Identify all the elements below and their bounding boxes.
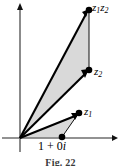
- label-z1z2: z1z2: [92, 2, 108, 15]
- point-z2: [86, 67, 93, 74]
- label-z2: z2: [94, 66, 102, 79]
- label-z1z2-sub2: 2: [105, 6, 109, 15]
- label-unit-point: 1 + 0i: [38, 140, 66, 152]
- label-z1: z1: [84, 106, 92, 119]
- complex-plane-figure: z1z2 z2 z1 1 + 0i Fig. 22: [0, 0, 121, 166]
- imaginary-axis-arrowhead: [17, 3, 23, 10]
- point-z1: [76, 110, 83, 117]
- real-axis-arrowhead: [112, 135, 118, 141]
- imaginary-unit-glyph: i: [63, 139, 66, 153]
- label-z1-sub: 1: [88, 110, 92, 119]
- figure-caption: Fig. 22: [0, 157, 121, 166]
- label-unit-text: 1 + 0: [38, 139, 63, 153]
- label-z2-sub: 2: [98, 70, 102, 79]
